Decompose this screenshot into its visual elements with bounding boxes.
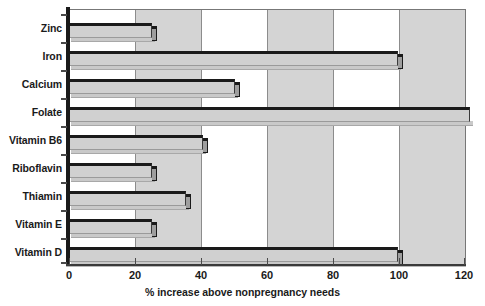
y-label-folate: Folate [32, 107, 62, 118]
y-tick-3 [61, 98, 67, 100]
bar-vitamin-d [69, 247, 398, 262]
bar-cap-iron [398, 54, 403, 69]
y-tick-4 [61, 126, 67, 128]
y-tick-9 [61, 262, 67, 264]
bar-cap-zinc [152, 26, 157, 41]
bar-vitamin-e [69, 219, 152, 234]
x-tick-20 [135, 258, 136, 265]
x-tick-label-120: 120 [455, 269, 473, 281]
y-label-zinc: Zinc [41, 23, 62, 34]
y-label-calcium: Calcium [22, 79, 62, 90]
x-tick-label-40: 40 [195, 269, 207, 281]
bar-chart: Zinc Iron Calcium Folate Vitamin B6 Ribo… [0, 0, 485, 306]
bar-vitamin-b6 [69, 135, 203, 150]
bar-cap-thiamin [186, 194, 191, 209]
y-label-thiamin: Thiamin [22, 191, 62, 202]
bar-thiamin [69, 191, 186, 206]
gridline-60 [267, 9, 268, 264]
y-label-vitamin-d: Vitamin D [15, 247, 62, 258]
y-label-riboflavin: Riboflavin [12, 163, 62, 174]
bar-zinc [69, 23, 152, 38]
plot-border-top [69, 9, 466, 10]
y-tick-1 [61, 42, 67, 44]
y-tick-8 [61, 238, 67, 240]
y-tick-7 [61, 210, 67, 212]
x-axis-title: % increase above nonpregnancy needs [0, 286, 485, 298]
x-tick-label-0: 0 [66, 269, 72, 281]
x-axis-shadow [66, 266, 466, 267]
y-label-vitamin-b6: Vitamin B6 [9, 135, 62, 146]
bar-cap-riboflavin [152, 166, 157, 181]
plot-border-right [465, 9, 466, 265]
bar-cap-vitamin-e [152, 222, 157, 237]
x-tick-60 [267, 258, 268, 265]
y-axis-line [66, 7, 70, 266]
y-tick-0 [61, 14, 67, 16]
y-tick-2 [61, 70, 67, 72]
y-label-iron: Iron [43, 51, 62, 62]
x-tick-0 [69, 258, 70, 265]
x-tick-label-60: 60 [261, 269, 273, 281]
x-tick-label-20: 20 [129, 269, 141, 281]
gridline-100 [399, 9, 400, 264]
gridline-80 [333, 9, 334, 264]
y-tick-5 [61, 154, 67, 156]
bar-folate [69, 107, 470, 122]
bar-calcium [69, 79, 235, 94]
x-tick-80 [333, 258, 334, 265]
bar-cap-vitamin-b6 [203, 138, 208, 153]
y-label-vitamin-e: Vitamin E [15, 219, 62, 230]
x-tick-label-100: 100 [390, 269, 408, 281]
bar-iron [69, 51, 398, 66]
x-tick-120 [464, 258, 465, 265]
bar-cap-calcium [235, 82, 240, 97]
x-tick-40 [201, 258, 202, 265]
bar-riboflavin [69, 163, 152, 178]
y-tick-6 [61, 182, 67, 184]
band-60-80 [267, 9, 333, 264]
band-100-120 [399, 9, 465, 264]
x-tick-100 [399, 258, 400, 265]
x-tick-label-80: 80 [327, 269, 339, 281]
